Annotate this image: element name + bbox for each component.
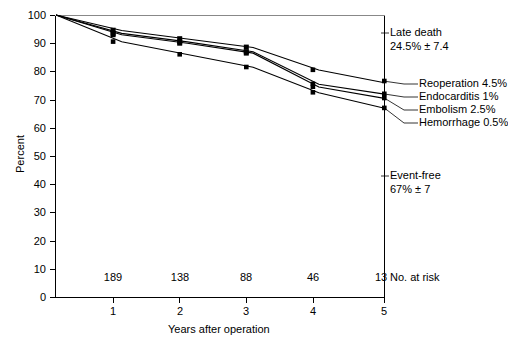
y-tick-label: 30: [16, 207, 46, 218]
curve-label-hemorrhage: Hemorrhage 0.5%: [419, 117, 508, 128]
y-tick-label: 60: [16, 123, 46, 134]
x-tick-label: 4: [298, 306, 328, 317]
curve-label-embolism: Embolism 2.5%: [419, 104, 495, 115]
x-tick-label: 2: [165, 306, 195, 317]
callout-leader-lines: [381, 33, 418, 176]
number-at-risk: 189: [93, 272, 133, 283]
curve-label-reoperation: Reoperation 4.5%: [419, 78, 507, 89]
callout-event-free-value: 67% ± 7: [390, 184, 430, 195]
x-axis-label: Years after operation: [168, 324, 270, 335]
number-at-risk-label: No. at risk: [390, 272, 440, 283]
y-tick-label: 40: [16, 179, 46, 190]
curve-reoperation: [56, 15, 385, 83]
callout-late-death-title: Late death: [390, 27, 442, 38]
callout-event-free-title: Event-free: [390, 170, 441, 181]
y-tick-label: 20: [16, 236, 46, 247]
curve-label-endocarditis: Endocarditis 1%: [419, 91, 499, 102]
y-tick-label: 80: [16, 66, 46, 77]
number-at-risk: 46: [293, 272, 333, 283]
number-at-risk: 88: [226, 272, 266, 283]
y-tick-label: 100: [16, 10, 46, 21]
y-tick-label: 0: [16, 292, 46, 303]
y-tick-label: 90: [16, 38, 46, 49]
x-tick-label: 5: [369, 306, 399, 317]
y-tick-label: 10: [16, 264, 46, 275]
curve-embolism: [56, 15, 385, 98]
number-at-risk: 138: [160, 272, 200, 283]
x-tick-label: 3: [231, 306, 261, 317]
callout-late-death-value: 24.5% ± 7.4: [390, 41, 449, 52]
y-tick-label: 50: [16, 151, 46, 162]
curve-markers: [111, 28, 387, 111]
x-tick-label: 1: [98, 306, 128, 317]
y-tick-label: 70: [16, 95, 46, 106]
